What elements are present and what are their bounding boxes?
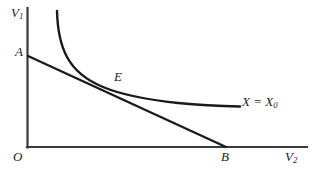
isoquant-label-subscript: 0: [273, 100, 277, 110]
x-axis-label-subscript: 2: [293, 155, 297, 165]
isoquant-curve: [57, 11, 240, 107]
figure-canvas: [0, 0, 314, 173]
y-axis-label-subscript: 1: [19, 11, 23, 21]
y-axis-label-text: V: [11, 5, 19, 20]
point-a-label: A: [15, 45, 23, 58]
point-b-label: B: [221, 150, 229, 163]
point-e-label: E: [114, 70, 122, 83]
isocost-line: [28, 56, 226, 147]
isoquant-label-text: X = X: [242, 94, 273, 109]
origin-label: O: [13, 150, 22, 163]
isoquant-label: X = X0: [242, 95, 277, 108]
y-axis-label: V1: [11, 6, 23, 19]
x-axis-label: V2: [285, 150, 297, 163]
isoquant-isocost-figure: V1 A E X = X0 O B V2: [0, 0, 314, 173]
x-axis-label-text: V: [285, 149, 293, 164]
